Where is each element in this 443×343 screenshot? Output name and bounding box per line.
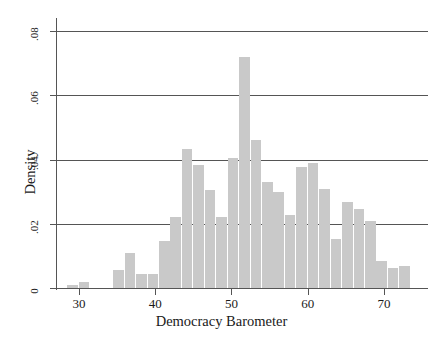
histogram-bar <box>170 217 181 288</box>
histogram-bar <box>331 239 342 288</box>
histogram-bar <box>125 253 136 288</box>
histogram-bar <box>251 140 262 288</box>
histogram-bar <box>296 167 307 288</box>
x-axis-line <box>54 288 428 289</box>
y-tick-label: 0 <box>28 288 40 294</box>
x-tick-label: 70 <box>378 296 391 312</box>
x-tick-mark <box>384 288 385 295</box>
x-tick-mark <box>155 288 156 295</box>
histogram-bar <box>239 57 250 288</box>
histogram-bar <box>285 215 296 288</box>
histogram-bar <box>388 268 399 288</box>
y-tick-label: .08 <box>28 27 40 41</box>
y-tick-label: .02 <box>28 220 40 234</box>
histogram-chart: Density 0.02.04.06.08 3040506070 Democra… <box>0 0 443 343</box>
x-tick-label: 40 <box>149 296 162 312</box>
x-tick-mark <box>79 288 80 295</box>
x-axis-title: Democracy Barometer <box>0 313 443 330</box>
x-tick-mark <box>231 288 232 295</box>
histogram-bar <box>308 163 319 288</box>
histogram-bar <box>113 270 124 288</box>
histogram-bar <box>79 282 90 288</box>
histogram-bar <box>399 266 410 288</box>
x-tick-label: 60 <box>301 296 314 312</box>
histogram-bar <box>273 192 284 288</box>
histogram-bar <box>262 182 273 288</box>
histogram-bar <box>354 209 365 288</box>
x-tick-mark <box>308 288 309 295</box>
y-tick-mark <box>50 288 57 289</box>
histogram-bar <box>365 221 376 288</box>
histogram-bar <box>342 202 353 288</box>
x-tick-label: 30 <box>72 296 85 312</box>
histogram-bar <box>205 190 216 288</box>
x-tick-label: 50 <box>225 296 238 312</box>
histogram-bar <box>376 261 387 288</box>
histogram-bar <box>67 285 78 288</box>
histogram-bar <box>136 274 147 288</box>
histogram-bar <box>319 189 330 288</box>
y-tick-label: .06 <box>28 92 40 106</box>
histogram-bar <box>182 149 193 288</box>
histogram-bar <box>148 274 159 288</box>
histogram-bar <box>159 241 170 288</box>
plot-area <box>56 20 426 288</box>
histogram-bar <box>216 217 227 288</box>
histogram-bar <box>193 165 204 288</box>
y-tick-label: .04 <box>28 156 40 170</box>
histogram-bar <box>228 158 239 288</box>
